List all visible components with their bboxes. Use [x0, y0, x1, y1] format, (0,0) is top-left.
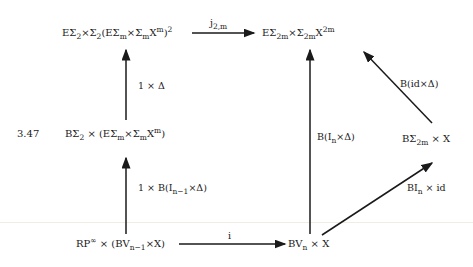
label-left-lower: 1 × B(In−1×Δ): [138, 182, 207, 194]
label-bottom-horizontal: i: [228, 230, 231, 242]
node-top-left: EΣ2×Σ2(EΣm×ΣmXm)2: [62, 27, 172, 39]
node-bottom-right: BVn × X: [288, 238, 329, 250]
node-top-right: EΣ2m×Σ2mX2m: [262, 27, 335, 39]
node-mid-left: BΣ2 × (EΣm×ΣmXm): [65, 128, 165, 140]
label-top-horizontal: j2,m: [210, 17, 227, 29]
label-diag-lower: BIn × id: [407, 182, 446, 194]
label-left-upper: 1 × Δ: [138, 80, 165, 92]
label-diag-upper: B(id×Δ): [400, 78, 438, 90]
label-right-vertical: B(In×Δ): [317, 131, 355, 143]
arrow-diag-lower: [322, 163, 432, 235]
node-bottom-left: RP∞ × (BVn−1×X): [76, 238, 165, 250]
node-mid-right: BΣ2m × X: [402, 133, 450, 145]
equation-number: 3.47: [17, 128, 39, 140]
